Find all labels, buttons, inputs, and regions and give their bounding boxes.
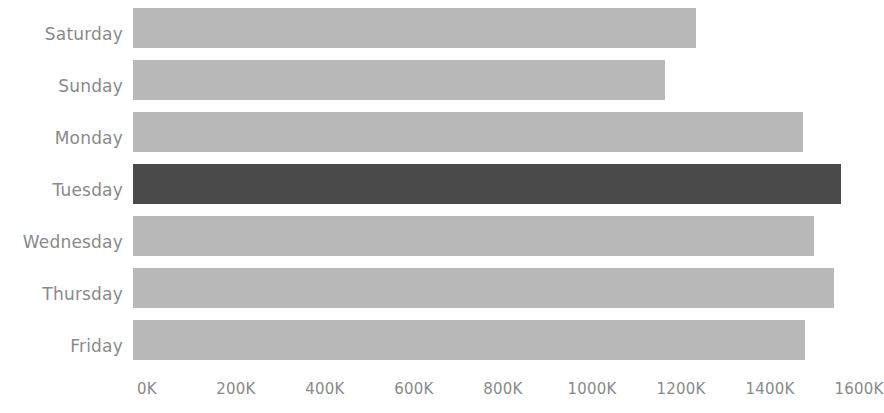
y-axis-category-labels: Saturday Sunday Monday Tuesday Wednesday… bbox=[0, 8, 123, 372]
y-axis-tick-label: Monday bbox=[55, 128, 123, 148]
bar-monday[interactable] bbox=[133, 112, 803, 152]
bar-row bbox=[133, 268, 845, 320]
x-axis-tick-label: 200K bbox=[216, 380, 255, 398]
x-axis-tick-label: 400K bbox=[305, 380, 344, 398]
bar-friday[interactable] bbox=[133, 320, 805, 360]
x-axis-tick-label: 1200K bbox=[656, 380, 705, 398]
y-axis-tick-label: Friday bbox=[70, 336, 123, 356]
y-axis-tick-label: Thursday bbox=[42, 284, 123, 304]
bar-row bbox=[133, 320, 845, 372]
bar-saturday[interactable] bbox=[133, 8, 696, 48]
bar-row bbox=[133, 164, 845, 216]
y-axis-tick-sunday: Sunday bbox=[0, 60, 123, 112]
y-axis-tick-label: Tuesday bbox=[52, 180, 123, 200]
bar-row bbox=[133, 60, 845, 112]
y-axis-tick-wednesday: Wednesday bbox=[0, 216, 123, 268]
y-axis-tick-thursday: Thursday bbox=[0, 268, 123, 320]
y-axis-tick-saturday: Saturday bbox=[0, 8, 123, 60]
x-axis-tick-labels: 0K200K400K600K800K1000K1200K1400K1600K bbox=[0, 380, 855, 406]
x-axis-tick-label: 1400K bbox=[745, 380, 794, 398]
x-axis-tick-label: 800K bbox=[483, 380, 522, 398]
x-axis-tick-label: 1000K bbox=[567, 380, 616, 398]
bar-tuesday[interactable] bbox=[133, 164, 841, 204]
y-axis-tick-monday: Monday bbox=[0, 112, 123, 164]
plot-area bbox=[133, 8, 845, 372]
y-axis-tick-label: Wednesday bbox=[23, 232, 123, 252]
y-axis-tick-label: Saturday bbox=[45, 24, 123, 44]
y-axis-tick-tuesday: Tuesday bbox=[0, 164, 123, 216]
y-axis-tick-label: Sunday bbox=[58, 76, 123, 96]
x-axis-tick-label: 0K bbox=[137, 380, 157, 398]
bar-wednesday[interactable] bbox=[133, 216, 814, 256]
bar-row bbox=[133, 216, 845, 268]
x-axis-tick-label: 1600K bbox=[834, 380, 883, 398]
bar-row bbox=[133, 8, 845, 60]
bar-sunday[interactable] bbox=[133, 60, 665, 100]
x-axis-tick-label: 600K bbox=[394, 380, 433, 398]
bar-thursday[interactable] bbox=[133, 268, 834, 308]
y-axis-tick-friday: Friday bbox=[0, 320, 123, 372]
bar-row bbox=[133, 112, 845, 164]
